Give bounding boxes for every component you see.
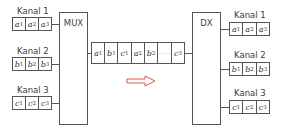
frame-cell: b2 [243, 63, 256, 75]
frame-cell: a3 [257, 23, 269, 35]
input-channel-2-frames: b1 b2 b3 [12, 57, 52, 71]
frame-cell: c2 [243, 101, 256, 113]
output-channel-3-frames: c1 c2 c3 [229, 100, 270, 114]
demultiplexer-box: DX [192, 12, 221, 125]
connector-line [51, 24, 59, 25]
stream-cell: a1 [92, 43, 105, 63]
demultiplexer-label: DX [193, 18, 220, 28]
connector-line [220, 29, 229, 30]
connector-line [220, 107, 229, 108]
output-channel-1-frames: a1 a2 a3 [229, 22, 270, 36]
frame-cell: c3 [257, 101, 269, 113]
stream-cell: b1 [105, 43, 118, 63]
stream-cell-ellipsis: ····· [158, 43, 172, 63]
output-channel-3-label: Kanal 3 [234, 88, 266, 98]
output-channel-2-label: Kanal 2 [234, 50, 266, 60]
frame-cell: b2 [26, 58, 39, 70]
input-channel-2-label: Kanal 2 [17, 46, 49, 56]
frame-cell: c3 [39, 97, 51, 109]
multiplexer-label: MUX [60, 18, 87, 28]
frame-cell: a1 [230, 23, 243, 35]
multiplexed-stream: a1 b1 c1 a2 b2 ····· c3 [91, 42, 185, 64]
frame-cell: a2 [26, 18, 39, 30]
frame-cell: b3 [257, 63, 269, 75]
multiplexer-box: MUX [59, 12, 88, 125]
frame-cell: a2 [243, 23, 256, 35]
output-channel-1-label: Kanal 1 [234, 10, 266, 20]
frame-cell: b3 [39, 58, 51, 70]
frame-cell: c1 [230, 101, 243, 113]
stream-cell: c1 [118, 43, 131, 63]
input-channel-3-frames: c1 c2 c3 [12, 96, 52, 110]
frame-cell: c2 [26, 97, 39, 109]
connector-line [51, 103, 59, 104]
stream-cell: b2 [145, 43, 158, 63]
frame-cell: b1 [230, 63, 243, 75]
input-channel-3-label: Kanal 3 [17, 85, 49, 95]
frame-cell: a3 [39, 18, 51, 30]
frame-cell: b1 [13, 58, 26, 70]
frame-cell: c1 [13, 97, 26, 109]
input-channel-1-frames: a1 a2 a3 [12, 17, 52, 31]
stream-cell: c3 [172, 43, 184, 63]
input-channel-1-label: Kanal 1 [17, 6, 49, 16]
output-channel-2-frames: b1 b2 b3 [229, 62, 270, 76]
right-arrow-icon [126, 75, 157, 87]
stream-cell: a2 [132, 43, 145, 63]
connector-line [51, 64, 59, 65]
frame-cell: a1 [13, 18, 26, 30]
connector-line [220, 69, 229, 70]
